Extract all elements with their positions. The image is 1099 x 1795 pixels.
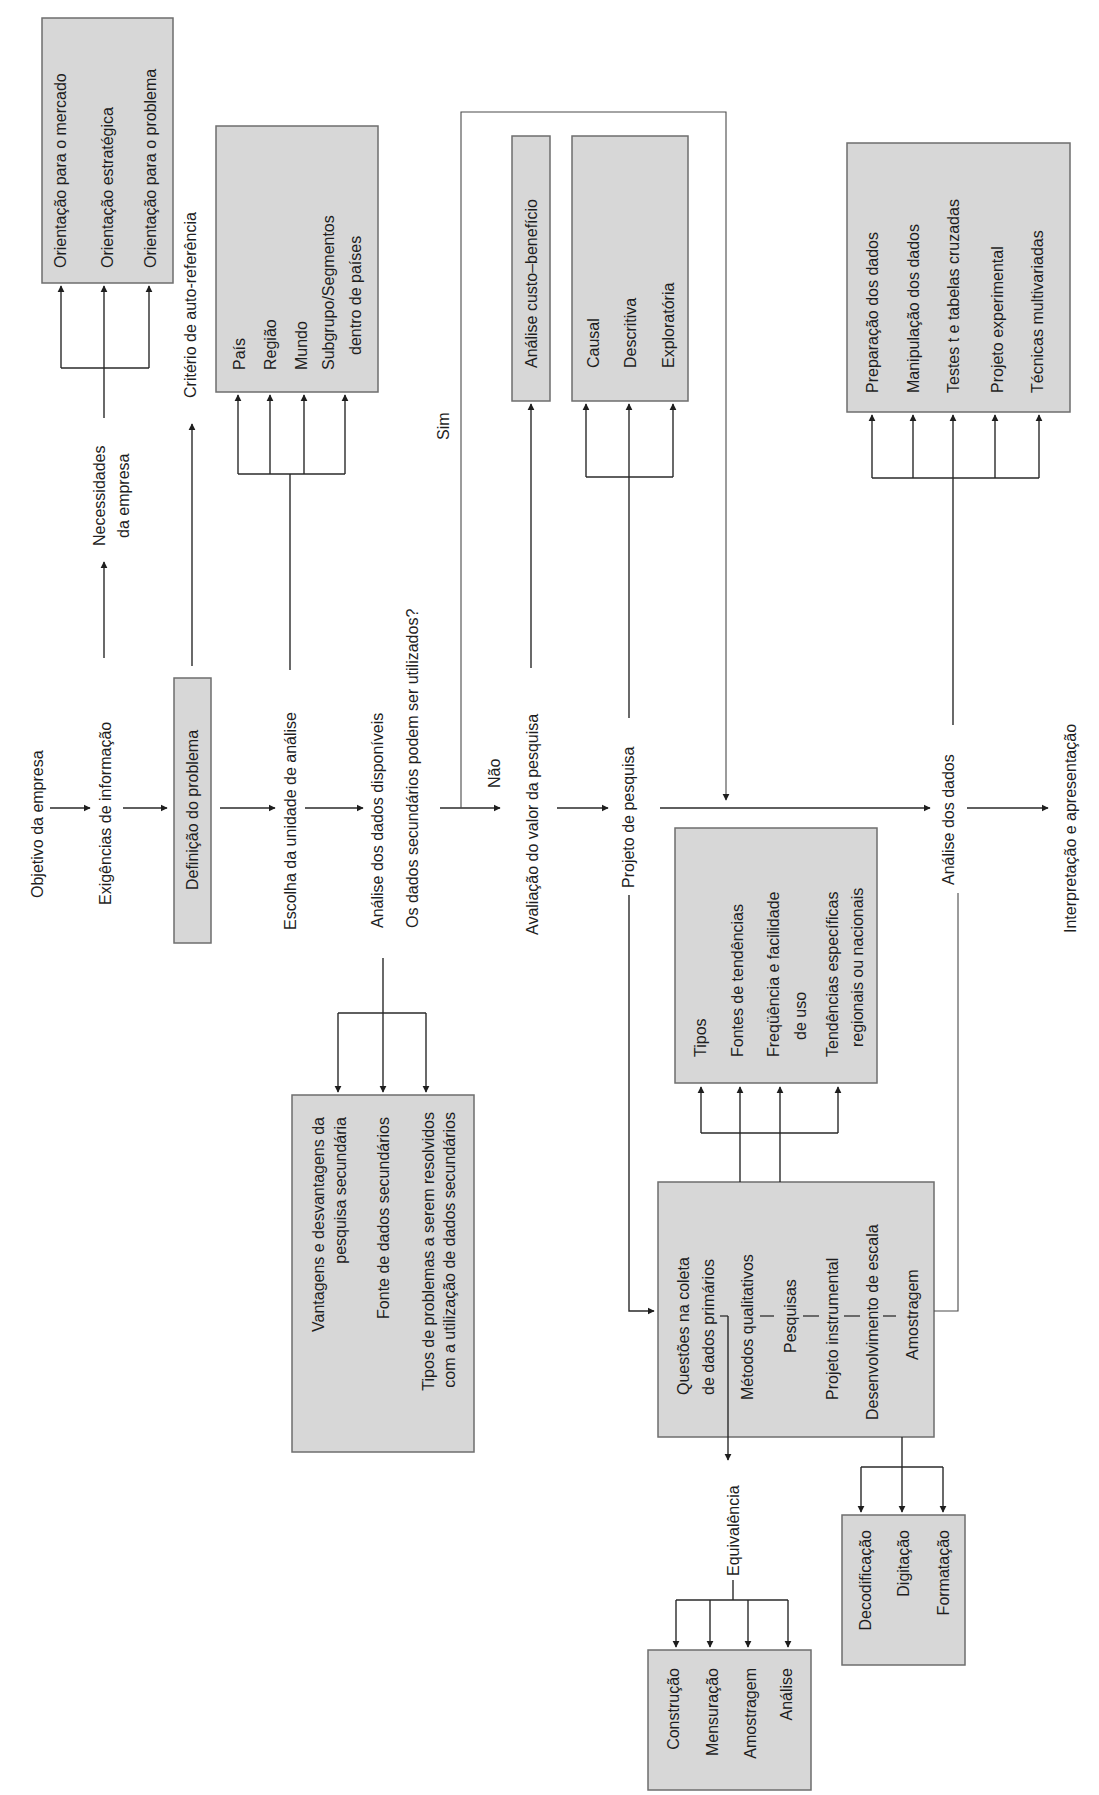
criterio-label: Critério de auto-referência: [182, 212, 199, 398]
analise-disponiveis-label: Análise dos dados disponíveis: [369, 713, 386, 928]
equivalencia-mensuracao: Mensuração: [704, 1668, 721, 1756]
definicao-label: Definição do problema: [184, 730, 201, 890]
unidade-connectors: [238, 395, 345, 670]
projeto-up-connectors: [586, 404, 673, 718]
unidade-mundo: Mundo: [293, 321, 310, 370]
custo-beneficio-label: Análise custo–benefício: [523, 199, 540, 368]
sim-label: Sim: [435, 412, 452, 440]
tendencias-connectors: [701, 1087, 838, 1182]
nao-label: Não: [486, 759, 503, 788]
tipo-descritiva: Descritiva: [622, 298, 639, 368]
analise-dados-label: Análise dos dados: [940, 754, 957, 885]
orientacao-estrategica: Orientação estratégica: [99, 107, 116, 268]
tipo-causal: Causal: [585, 318, 602, 368]
secundarios-vantagens: Vantagens e desvantagens da: [310, 1117, 327, 1332]
equivalencia-construcao: Construção: [665, 1668, 682, 1750]
exigencias-label: Exigências de informação: [97, 722, 114, 905]
equivalencia-amostragem: Amostragem: [742, 1668, 759, 1759]
preparacao-digitacao: Digitação: [895, 1530, 912, 1597]
tendencias-especificas-2: regionais ou nacionais: [849, 888, 866, 1047]
secundarios-tipos-2: com a utilização de dados secundários: [441, 1112, 458, 1388]
preparacao-formatacao: Formatação: [935, 1530, 952, 1615]
necessidades-label: Necessidades: [91, 446, 108, 547]
unidade-subgrupo-2: dentro de países: [347, 236, 364, 355]
analise-up-connectors: [872, 415, 1039, 725]
escolha-label: Escolha da unidade de análise: [282, 712, 299, 930]
tendencias-frequencia-2: de uso: [792, 992, 809, 1040]
coleta-projeto: Projeto instrumental: [824, 1258, 841, 1400]
tecnica-preparacao: Preparação dos dados: [864, 232, 881, 393]
secundarios-tipos: Tipos de problemas a serem resolvidos: [420, 1112, 437, 1391]
unidade-subgrupo: Subgrupo/Segmentos: [320, 215, 337, 370]
secundarios-connectors: [338, 958, 426, 1092]
tecnica-multivariadas: Técnicas multivariadas: [1029, 230, 1046, 393]
research-process-diagram: Objetivo da empresa Exigências de inform…: [0, 0, 1099, 1795]
coleta-metodos: Métodos qualitativos: [739, 1254, 756, 1400]
equivalencia-analise: Análise: [778, 1668, 795, 1721]
secundarios-fonte: Fonte de dados secundários: [375, 1117, 392, 1319]
coleta-questoes: Questões na coleta: [675, 1257, 692, 1395]
orientacao-problema: Orientação para o problema: [142, 69, 159, 268]
tecnica-testes: Testes t e tabelas cruzadas: [945, 199, 962, 393]
tipo-exploratoria: Exploratória: [660, 283, 677, 368]
projeto-down-connector: [629, 895, 654, 1311]
tendencias-especificas: Tendências específicas: [824, 892, 841, 1057]
pergunta-secundarios-label: Os dados secundários podem ser utilizado…: [404, 609, 421, 928]
preparacao-connectors: [861, 1437, 943, 1512]
tecnica-projeto-experimental: Projeto experimental: [989, 246, 1006, 393]
orientacao-mercado: Orientação para o mercado: [52, 73, 69, 268]
coleta-to-analise-connector: [934, 893, 958, 1311]
unidade-pais: País: [231, 338, 248, 370]
necessidades-label-2: da empresa: [115, 453, 132, 538]
tecnica-manipulacao: Manipulação dos dados: [905, 224, 922, 393]
interpretacao-label: Interpretação e apresentação: [1062, 724, 1079, 933]
preparacao-decodificacao: Decodificação: [857, 1530, 874, 1631]
tendencias-tipos: Tipos: [692, 1018, 709, 1057]
avaliacao-label: Avaliação do valor da pesquisa: [524, 714, 541, 935]
projeto-label: Projeto de pesquisa: [620, 746, 637, 888]
coleta-pesquisas: Pesquisas: [782, 1279, 799, 1353]
unidade-regiao: Região: [262, 319, 279, 370]
coleta-amostragem: Amostragem: [904, 1269, 921, 1360]
coleta-questoes-2: de dados primários: [700, 1259, 717, 1395]
coleta-desenvolvimento: Desenvolvimento de escala: [864, 1224, 881, 1420]
secundarios-vantagens-2: pesquisa secundária: [332, 1117, 349, 1264]
tendencias-frequencia: Freqüência e facilidade: [765, 891, 782, 1057]
objetivo-label: Objetivo da empresa: [29, 750, 46, 898]
tendencias-fontes: Fontes de tendências: [729, 904, 746, 1057]
equivalencia-label: Equivalência: [725, 1485, 742, 1576]
